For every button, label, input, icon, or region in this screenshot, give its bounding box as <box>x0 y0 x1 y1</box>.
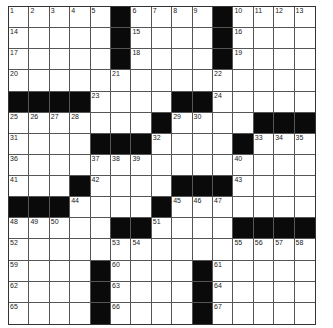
grid-cell[interactable] <box>172 218 192 239</box>
grid-cell[interactable] <box>50 155 70 176</box>
grid-cell[interactable] <box>29 303 49 324</box>
grid-cell[interactable]: 29 <box>172 113 192 134</box>
grid-cell[interactable]: 51 <box>152 218 172 239</box>
grid-cell[interactable]: 23 <box>91 92 111 113</box>
grid-cell[interactable] <box>152 28 172 49</box>
grid-cell[interactable]: 11 <box>254 7 274 28</box>
grid-cell[interactable] <box>213 218 233 239</box>
grid-cell[interactable] <box>29 70 49 91</box>
grid-cell[interactable]: 59 <box>9 261 29 282</box>
grid-cell[interactable]: 6 <box>131 7 151 28</box>
grid-cell[interactable]: 20 <box>9 70 29 91</box>
grid-cell[interactable] <box>233 282 253 303</box>
grid-cell[interactable] <box>254 303 274 324</box>
grid-cell[interactable] <box>274 92 294 113</box>
grid-cell[interactable]: 30 <box>193 113 213 134</box>
grid-cell[interactable]: 13 <box>295 7 315 28</box>
grid-cell[interactable] <box>254 28 274 49</box>
grid-cell[interactable]: 40 <box>233 155 253 176</box>
grid-cell[interactable]: 5 <box>91 7 111 28</box>
grid-cell[interactable] <box>70 303 90 324</box>
grid-cell[interactable]: 22 <box>213 70 233 91</box>
grid-cell[interactable] <box>172 134 192 155</box>
grid-cell[interactable] <box>295 49 315 70</box>
grid-cell[interactable]: 42 <box>91 176 111 197</box>
grid-cell[interactable]: 14 <box>9 28 29 49</box>
grid-cell[interactable] <box>172 239 192 260</box>
grid-cell[interactable]: 15 <box>131 28 151 49</box>
grid-cell[interactable]: 35 <box>295 134 315 155</box>
grid-cell[interactable] <box>233 92 253 113</box>
grid-cell[interactable] <box>172 49 192 70</box>
grid-cell[interactable] <box>254 197 274 218</box>
grid-cell[interactable]: 47 <box>213 197 233 218</box>
grid-cell[interactable] <box>193 218 213 239</box>
grid-cell[interactable] <box>131 176 151 197</box>
grid-cell[interactable] <box>233 303 253 324</box>
grid-cell[interactable] <box>152 261 172 282</box>
grid-cell[interactable]: 60 <box>111 261 131 282</box>
grid-cell[interactable] <box>29 282 49 303</box>
grid-cell[interactable] <box>274 70 294 91</box>
grid-cell[interactable]: 38 <box>111 155 131 176</box>
grid-cell[interactable]: 17 <box>9 49 29 70</box>
grid-cell[interactable]: 45 <box>172 197 192 218</box>
grid-cell[interactable] <box>50 28 70 49</box>
grid-cell[interactable]: 66 <box>111 303 131 324</box>
grid-cell[interactable] <box>233 261 253 282</box>
grid-cell[interactable]: 10 <box>233 7 253 28</box>
grid-cell[interactable]: 1 <box>9 7 29 28</box>
grid-cell[interactable]: 2 <box>29 7 49 28</box>
grid-cell[interactable] <box>295 70 315 91</box>
grid-cell[interactable]: 9 <box>193 7 213 28</box>
grid-cell[interactable]: 50 <box>50 218 70 239</box>
grid-cell[interactable]: 32 <box>152 134 172 155</box>
grid-cell[interactable] <box>70 70 90 91</box>
grid-cell[interactable] <box>131 303 151 324</box>
grid-cell[interactable] <box>193 70 213 91</box>
grid-cell[interactable] <box>172 28 192 49</box>
grid-cell[interactable]: 62 <box>9 282 29 303</box>
grid-cell[interactable] <box>70 134 90 155</box>
grid-cell[interactable] <box>152 303 172 324</box>
grid-cell[interactable] <box>152 282 172 303</box>
grid-cell[interactable] <box>254 70 274 91</box>
grid-cell[interactable] <box>152 92 172 113</box>
grid-cell[interactable] <box>172 303 192 324</box>
grid-cell[interactable] <box>213 155 233 176</box>
grid-cell[interactable] <box>274 197 294 218</box>
grid-cell[interactable] <box>295 282 315 303</box>
grid-cell[interactable] <box>274 303 294 324</box>
grid-cell[interactable] <box>274 49 294 70</box>
grid-cell[interactable]: 31 <box>9 134 29 155</box>
grid-cell[interactable] <box>274 155 294 176</box>
grid-cell[interactable] <box>131 197 151 218</box>
grid-cell[interactable]: 61 <box>213 261 233 282</box>
grid-cell[interactable]: 26 <box>29 113 49 134</box>
grid-cell[interactable] <box>213 239 233 260</box>
grid-cell[interactable]: 39 <box>131 155 151 176</box>
grid-cell[interactable] <box>50 282 70 303</box>
grid-cell[interactable] <box>29 155 49 176</box>
grid-cell[interactable] <box>91 197 111 218</box>
grid-cell[interactable] <box>111 197 131 218</box>
grid-cell[interactable]: 36 <box>9 155 29 176</box>
grid-cell[interactable] <box>274 282 294 303</box>
grid-cell[interactable]: 27 <box>50 113 70 134</box>
grid-cell[interactable] <box>254 92 274 113</box>
grid-cell[interactable] <box>152 70 172 91</box>
grid-cell[interactable] <box>172 282 192 303</box>
grid-cell[interactable] <box>152 155 172 176</box>
grid-cell[interactable] <box>131 261 151 282</box>
grid-cell[interactable] <box>131 113 151 134</box>
grid-cell[interactable] <box>295 28 315 49</box>
grid-cell[interactable]: 57 <box>274 239 294 260</box>
grid-cell[interactable] <box>70 49 90 70</box>
grid-cell[interactable] <box>172 155 192 176</box>
grid-cell[interactable]: 8 <box>172 7 192 28</box>
grid-cell[interactable] <box>295 92 315 113</box>
grid-cell[interactable] <box>152 176 172 197</box>
grid-cell[interactable]: 18 <box>131 49 151 70</box>
grid-cell[interactable] <box>274 176 294 197</box>
grid-cell[interactable] <box>29 239 49 260</box>
